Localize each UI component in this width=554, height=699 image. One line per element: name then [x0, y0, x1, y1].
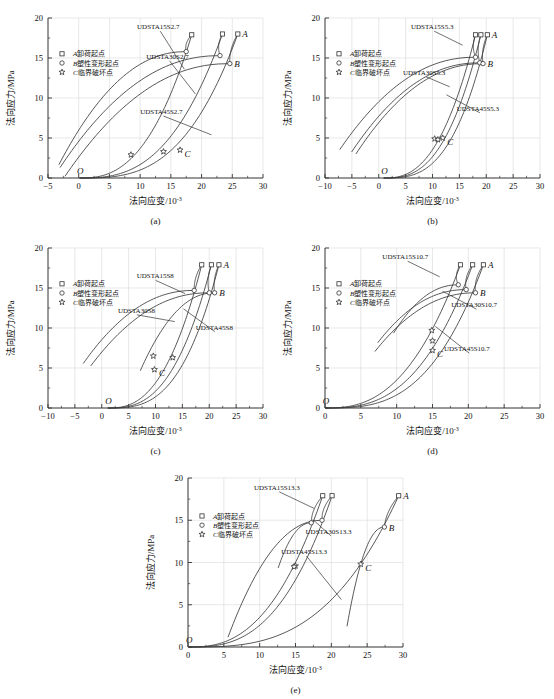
x-tick-label: 25 — [232, 411, 241, 421]
x-tick-label: 15 — [291, 650, 300, 660]
y-tick-label: 0 — [39, 403, 43, 413]
label-point-C: C — [159, 368, 166, 378]
x-axis-ticks: 051015202530 — [186, 643, 407, 660]
marker-square-A — [236, 32, 240, 36]
x-tick-label: 30 — [259, 181, 268, 191]
x-tick-label: −10 — [41, 411, 54, 421]
marker-square-A — [209, 263, 213, 267]
chart-panel-e: 05101520253005101520法向应变/10-3法向应力/MPaABC… — [140, 460, 417, 699]
marker-circle-B — [60, 61, 64, 65]
marker-square-A — [217, 263, 221, 267]
marker-square-A — [60, 282, 64, 286]
marker-star-C — [199, 531, 205, 537]
legend-item-C: C临界破坏点 — [213, 530, 253, 539]
marker-circle-B — [473, 291, 477, 295]
marker-square-A — [485, 33, 489, 37]
x-tick-label: 5 — [127, 411, 131, 421]
x-tick-label: 15 — [428, 411, 437, 421]
gridlines — [325, 18, 540, 178]
x-tick-label: 10 — [428, 181, 437, 191]
legend-item-B: B塑性变形起点 — [350, 59, 396, 68]
x-tick-label: 0 — [323, 411, 327, 421]
marker-square-A — [200, 263, 204, 267]
chart-panel-c: −10−505101520253005101520法向应变/10-3法向应力/M… — [0, 230, 277, 460]
label-point-O: O — [77, 166, 84, 176]
x-tick-label: −5 — [347, 181, 356, 191]
marker-star-C — [336, 69, 342, 75]
marker-square-A — [337, 52, 341, 56]
panel-caption-a: (a) — [151, 216, 161, 226]
y-axis-ticks: 05101520 — [312, 13, 330, 183]
legend: A卸荷起点B塑性变形起点C临界破坏点 — [336, 49, 396, 76]
annotation-UDSTA15S8: UDSTA15S8 — [137, 272, 175, 280]
curve-annotations: UDSTA15S2.7UDSTA30S2.7UDSTA45S2.7 — [137, 23, 211, 135]
legend: A卸荷起点B塑性变形起点C临界破坏点 — [336, 279, 396, 306]
label-point-B: B — [480, 288, 486, 298]
x-tick-label: 10 — [392, 411, 401, 421]
x-axis-title: 法向应变/10-3 — [129, 195, 182, 206]
marker-circle-B — [382, 525, 386, 529]
x-axis-title: 法向应变/10-3 — [269, 664, 322, 675]
x-tick-label: 25 — [228, 181, 237, 191]
chart-panel-b: −10−505101520253005101520法向应变/10-3法向应力/M… — [277, 0, 554, 230]
label-point-O: O — [323, 396, 330, 406]
marker-circle-B — [207, 291, 211, 295]
marker-square-A — [471, 263, 475, 267]
marker-square-A — [330, 494, 334, 498]
marker-circle-B — [456, 283, 460, 287]
legend: A卸荷起点B塑性变形起点C临界破坏点 — [59, 279, 119, 306]
marker-square-A — [337, 282, 341, 286]
marker-star-C — [59, 69, 65, 75]
y-tick-label: 5 — [39, 133, 43, 143]
y-axis-ticks: 05101520 — [35, 243, 53, 413]
curve-unloading-UDSTA45S13.3 — [347, 496, 399, 626]
plot-a: −505101520253005101520法向应变/10-3法向应力/MPaA… — [0, 0, 277, 230]
marker-square-A — [458, 263, 462, 267]
marker-circle-B — [473, 55, 477, 59]
legend-item-A: A卸荷起点 — [212, 512, 245, 521]
marker-star-C — [358, 561, 364, 567]
y-tick-label: 10 — [312, 323, 321, 333]
annotation-UDSTA45S2.7: UDSTA45S2.7 — [140, 108, 183, 116]
label-point-A: A — [222, 260, 229, 270]
label-point-A: A — [241, 29, 248, 39]
x-tick-label: −5 — [43, 181, 52, 191]
y-tick-label: 5 — [316, 363, 320, 373]
label-point-B: B — [234, 59, 240, 69]
legend-item-B: B塑性变形起点 — [350, 289, 396, 298]
x-tick-label: 5 — [222, 650, 226, 660]
x-tick-label: 25 — [509, 181, 518, 191]
marker-circle-B — [228, 61, 232, 65]
label-point-O: O — [105, 396, 112, 406]
x-axis-title: 法向应变/10-3 — [406, 195, 459, 206]
annotation-UDSTA15S5.3: UDSTA15S5.3 — [411, 23, 454, 31]
marker-square-A — [190, 33, 194, 37]
y-tick-label: 20 — [312, 243, 321, 253]
marker-square-A — [479, 33, 483, 37]
legend-item-A: A卸荷起点 — [349, 49, 382, 58]
legend-item-A: A卸荷起点 — [72, 279, 105, 288]
annotation-UDSTA30S2.7: UDSTA30S2.7 — [146, 53, 189, 61]
legend-item-C: C临界破坏点 — [73, 298, 113, 307]
plot-e: 05101520253005101520法向应变/10-3法向应力/MPaABC… — [140, 460, 417, 699]
y-axis-title: 法向应力/MPa — [282, 300, 293, 356]
legend-item-B: B塑性变形起点 — [73, 59, 119, 68]
panel-caption-d: (d) — [427, 446, 438, 456]
y-tick-label: 15 — [35, 53, 44, 63]
point-letter-labels: ABCO — [105, 260, 229, 406]
x-tick-label: 25 — [500, 411, 509, 421]
marker-star-C — [151, 367, 157, 373]
y-tick-label: 10 — [35, 323, 44, 333]
y-tick-label: 10 — [175, 558, 184, 568]
marker-circle-B — [464, 287, 468, 291]
y-tick-label: 0 — [316, 403, 320, 413]
legend-item-A: A卸荷起点 — [72, 49, 105, 58]
marker-circle-B — [320, 518, 324, 522]
x-tick-label: 0 — [377, 181, 381, 191]
figure-multi-panel-stress-strain: −505101520253005101520法向应变/10-3法向应力/MPaA… — [0, 0, 554, 699]
legend-item-B: B塑性变形起点 — [73, 289, 119, 298]
marker-circle-B — [218, 53, 222, 57]
x-tick-label: 30 — [259, 411, 268, 421]
label-point-C: C — [365, 563, 372, 573]
marker-circle-B — [192, 288, 196, 292]
